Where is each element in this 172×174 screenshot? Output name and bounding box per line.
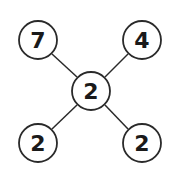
node-value: 2: [30, 131, 45, 156]
node-center: 2: [72, 72, 110, 110]
line-bottom-right: [105, 105, 128, 129]
node-value: 4: [134, 28, 149, 53]
node-top-right: 4: [123, 21, 161, 59]
node-bottom-right: 2: [123, 124, 161, 162]
node-value: 2: [134, 131, 149, 156]
node-top-left: 7: [19, 21, 57, 59]
line-top-right: [105, 54, 128, 77]
node-value: 7: [30, 28, 45, 53]
center-value: 2: [83, 79, 98, 104]
line-bottom-left: [52, 105, 77, 129]
node-bottom-left: 2: [19, 124, 57, 162]
line-top-left: [52, 54, 77, 77]
puzzle-diagram: 7 4 2 2 2: [0, 0, 172, 174]
